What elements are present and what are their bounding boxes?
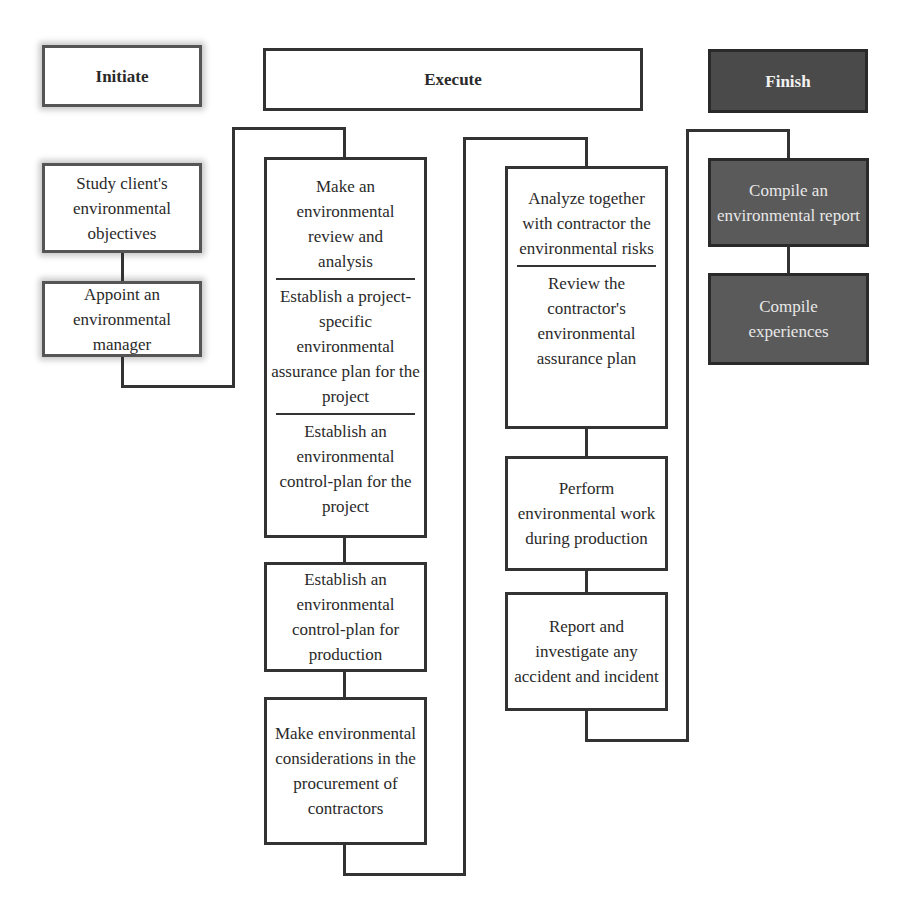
step-compile-experiences: Compile experiences xyxy=(708,273,869,365)
connector xyxy=(585,711,588,741)
divider xyxy=(276,278,414,280)
step-control-plan-project: Establish an environmental control-plan … xyxy=(267,419,424,519)
step-label: Study client's environmental objectives xyxy=(51,171,193,246)
connector xyxy=(463,137,588,140)
step-label: Compile experiences xyxy=(739,294,838,344)
step-report-accidents: Report and investigate any accident and … xyxy=(505,592,668,711)
step-label: Perform environmental work during produc… xyxy=(514,476,659,551)
connector xyxy=(585,571,588,592)
connector xyxy=(343,672,346,697)
connector xyxy=(585,429,588,456)
phase-execute-label: Execute xyxy=(424,67,482,92)
connector xyxy=(686,129,790,132)
phase-initiate: Initiate xyxy=(42,45,202,107)
connector xyxy=(787,247,790,273)
connector xyxy=(121,253,124,281)
connector xyxy=(232,127,345,130)
step-assurance-plan: Establish a project-specific environment… xyxy=(267,284,424,409)
connector xyxy=(121,357,124,387)
connector xyxy=(343,127,346,157)
connector xyxy=(343,873,466,876)
connector xyxy=(585,137,588,166)
step-procurement: Make environmental considerations in the… xyxy=(264,697,427,845)
connector xyxy=(585,739,689,742)
step-analyze-risks: Analyze together with contractor the env… xyxy=(508,186,665,261)
phase-finish-label: Finish xyxy=(765,69,810,94)
step-study-objectives: Study client's environmental objectives xyxy=(42,163,202,253)
connector xyxy=(343,538,346,562)
step-label: Compile an environmental report xyxy=(715,178,862,228)
connector xyxy=(232,127,235,388)
step-label: Report and investigate any accident and … xyxy=(514,614,659,689)
connector xyxy=(787,129,790,158)
phase-finish: Finish xyxy=(708,49,868,113)
connector xyxy=(121,385,234,388)
divider xyxy=(517,265,655,267)
divider xyxy=(276,413,414,415)
phase-initiate-label: Initiate xyxy=(96,64,149,89)
phase-execute: Execute xyxy=(263,48,643,111)
step-review-contractor-plan: Review the contractor's environmental as… xyxy=(508,271,665,371)
step-label: Make environmental considerations in the… xyxy=(270,721,421,821)
step-compile-report: Compile an environmental report xyxy=(708,158,869,247)
connector xyxy=(463,137,466,876)
step-appoint-manager: Appoint an environmental manager xyxy=(42,281,202,357)
step-label: Appoint an environmental manager xyxy=(51,282,193,357)
step-review-and-plans: Make an environmental review and analysi… xyxy=(264,157,427,538)
step-risks-and-review: Analyze together with contractor the env… xyxy=(505,166,668,429)
step-perform-work: Perform environmental work during produc… xyxy=(505,456,668,571)
connector xyxy=(686,129,689,742)
step-label: Establish an environmental control-plan … xyxy=(271,567,420,667)
step-control-plan-production: Establish an environmental control-plan … xyxy=(264,562,427,672)
step-review-analysis: Make an environmental review and analysi… xyxy=(267,174,424,274)
connector xyxy=(343,845,346,875)
